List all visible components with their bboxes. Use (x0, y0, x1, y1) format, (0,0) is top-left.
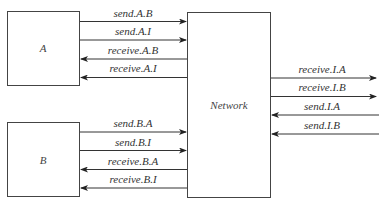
edge-label-send-a-b: send.A.B (113, 7, 152, 19)
edge-label-receive-a-i: receive.A.I (109, 62, 158, 74)
node-b-label: B (40, 154, 47, 166)
node-a-label: A (39, 42, 47, 54)
edge-label-receive-i-b: receive.I.B (298, 81, 346, 93)
edge-label-send-i-a: send.I.A (304, 100, 340, 112)
edge-label-receive-b-i: receive.B.I (109, 173, 158, 185)
edge-label-receive-b-a: receive.B.A (108, 155, 159, 167)
edge-label-send-i-b: send.I.B (304, 119, 340, 131)
network-diagram: A B Network send.A.B send.A.I receive.A.… (0, 0, 383, 206)
edge-label-send-b-i: send.B.I (115, 136, 152, 148)
edge-label-send-a-i: send.A.I (115, 25, 152, 37)
edge-label-send-b-a: send.B.A (113, 117, 152, 129)
edge-label-receive-a-b: receive.A.B (108, 44, 159, 56)
node-network-label: Network (209, 99, 248, 111)
edge-label-receive-i-a: receive.I.A (298, 63, 346, 75)
